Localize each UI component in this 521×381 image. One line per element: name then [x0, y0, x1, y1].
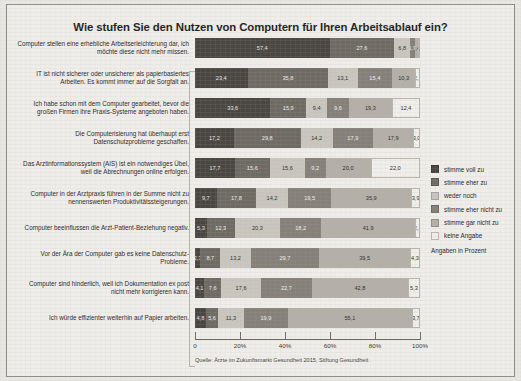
bar-value-label: 5,3	[197, 225, 205, 231]
bar-segment: 29,7	[251, 248, 319, 268]
legend-label: stimme gar nicht zu	[444, 219, 499, 226]
category-label: Das Arztinformationssystem (AIS) ist ein…	[17, 160, 195, 175]
bar-value-label: 15,6	[247, 165, 258, 171]
category-label: Computer in der Arztpraxis führen in der…	[17, 190, 195, 205]
category-label: Computer sind hinderlich, weil ich Dokum…	[17, 280, 195, 295]
bar-value-label: 4,3	[411, 255, 419, 261]
legend-item[interactable]: stimme eher zu	[431, 178, 521, 186]
bar-segment: 12,4	[392, 98, 420, 118]
bar-value-label: 22,0	[390, 165, 401, 171]
bar-value-label: 19,3	[365, 105, 376, 111]
bar-value-label: 9,4	[313, 105, 321, 111]
legend-label: stimme eher zu	[444, 179, 487, 186]
bar-value-label: 9,6	[334, 105, 342, 111]
x-axis-tick-label: 0	[193, 342, 196, 349]
bar-segment: 9,6	[327, 98, 349, 118]
bar-segment: 12,3	[207, 218, 235, 238]
bar-segment: 14,2	[256, 188, 288, 208]
bar-value-label: 17,9	[388, 135, 399, 141]
bar-value-label: 3,7	[412, 315, 420, 321]
bar-segment: 9,4	[306, 98, 327, 118]
bar-value-label: 14,2	[311, 135, 322, 141]
bar-value-label: 10,3	[398, 75, 409, 81]
bar-segment: 7,6	[204, 278, 221, 298]
bar-segment: 17,9	[373, 128, 413, 148]
bar-value-label: 2,3	[195, 255, 200, 261]
bar-segment: 39,5	[319, 248, 410, 268]
bar-segment: 17,7	[195, 158, 235, 178]
bar-segment: 17,8	[217, 188, 257, 208]
x-axis-tick	[240, 332, 241, 340]
legend-swatch-icon	[431, 165, 439, 173]
bar-value-label: 12,3	[215, 225, 226, 231]
bar-value-label: 14,2	[267, 195, 278, 201]
category-label: Die Computerisierung hat überhaupt erst …	[17, 130, 195, 145]
bar-value-label: 11,3	[226, 315, 236, 321]
bar-value-label: 8,7	[206, 255, 214, 261]
bar-segment: 5,6	[206, 308, 219, 328]
legend-label: stimme eher nicht zu	[444, 206, 502, 213]
legend-item[interactable]: stimme gar nicht zu	[431, 219, 521, 227]
bar-value-label: 1,4	[415, 45, 418, 51]
legend-unit-note: Angaben in Prozent	[431, 247, 521, 254]
page-title: Wie stufen Sie den Nutzen von Computern …	[7, 21, 514, 33]
bar-segment: 22,0	[371, 158, 420, 178]
bar-segment: 5,3	[195, 218, 207, 238]
table-row: Die Computerisierung hat überhaupt erst …	[17, 127, 515, 149]
x-axis-tick-label: 60%	[324, 342, 336, 349]
bar-value-label: 57,4	[257, 45, 268, 51]
bar-value-label: 29,7	[279, 255, 290, 261]
bar-value-label: 17,2	[209, 135, 220, 141]
bar-value-label: 35,8	[282, 75, 293, 81]
bar-value-label: 23,4	[216, 75, 227, 81]
table-row: Ich habe schon mit dem Computer gearbeit…	[17, 97, 515, 119]
table-row: Computer stellen eine erhebliche Arbeits…	[17, 37, 515, 59]
bar-value-label: 15,4	[369, 75, 380, 81]
stacked-bar: 23,435,813,115,410,32,1	[195, 68, 420, 88]
x-axis-tick-label: 20%	[234, 342, 246, 349]
bar-value-label: 4,1	[196, 285, 204, 291]
legend-label: keine Angabe	[444, 232, 482, 239]
bar-segment: 17,9	[333, 128, 373, 148]
legend-swatch-icon	[431, 205, 439, 213]
bar-value-label: 3,9	[412, 195, 420, 201]
bar-value-label: 5,3	[410, 285, 418, 291]
bar-segment: 35,9	[331, 188, 411, 208]
legend-swatch-icon	[431, 192, 439, 200]
x-axis-tick	[375, 332, 376, 340]
legend-item[interactable]: stimme eher nicht zu	[431, 205, 521, 213]
bar-segment: 57,4	[195, 38, 330, 58]
bar-value-label: 19,9	[260, 315, 271, 321]
table-row: IT ist nicht sicherer oder unsicherer al…	[17, 67, 515, 89]
bar-value-label: 27,6	[356, 45, 367, 51]
stacked-bar: 57,427,66,81,91,40,9	[195, 38, 420, 58]
bar-segment: 15,6	[270, 158, 305, 178]
bar-value-label: 41,9	[363, 225, 374, 231]
legend-item[interactable]: stimme voll zu	[431, 165, 521, 173]
bar-value-label: 3,0	[413, 135, 420, 141]
stacked-bar: 33,615,99,49,619,312,4	[195, 98, 420, 118]
legend-swatch-icon	[431, 178, 439, 186]
bar-value-label: 5,6	[208, 315, 216, 321]
stacked-bar: 4,85,611,319,955,13,7	[195, 308, 420, 328]
bar-segment: 17,6	[221, 278, 261, 298]
bar-segment: 4,3	[410, 248, 420, 268]
category-label: Computer beeinflussen die Arzt-Patient-B…	[17, 224, 195, 232]
bar-segment: 2,1	[415, 68, 420, 88]
bar-segment: 8,7	[200, 248, 220, 268]
x-axis-tick-labels: 020%40%60%80%100%	[195, 342, 420, 354]
legend-label: weder noch	[444, 192, 477, 199]
bar-value-label: 33,6	[227, 105, 238, 111]
legend-item[interactable]: weder noch	[431, 192, 521, 200]
stacked-bar: 17,229,814,217,917,93,0	[195, 128, 420, 148]
bar-value-label: 0,9	[418, 45, 420, 51]
bar-segment: 35,8	[248, 68, 328, 88]
bar-value-label: 2,1	[415, 225, 420, 231]
bar-segment: 2,1	[415, 218, 420, 238]
bar-value-label: 6,8	[398, 45, 406, 51]
stacked-bar: 17,715,615,69,220,022,0	[195, 158, 420, 178]
legend-item[interactable]: keine Angabe	[431, 232, 521, 240]
bar-segment: 14,2	[301, 128, 333, 148]
bar-segment: 15,9	[270, 98, 306, 118]
bar-value-label: 35,9	[366, 195, 377, 201]
